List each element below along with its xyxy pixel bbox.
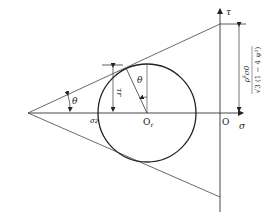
- sigma-axis-label: σ: [239, 121, 246, 131]
- sigma-z-label: σz: [90, 117, 99, 125]
- center-angle-label: θ: [137, 75, 143, 85]
- failure-envelope: [28, 24, 220, 197]
- svg-text:√3 (1 − 4 ψ²): √3 (1 − 4 ψ²): [254, 47, 262, 94]
- apex-angle-label: θ: [72, 96, 78, 106]
- tau-r-label: τr: [115, 88, 124, 97]
- svg-text:ρkσ0: ρkσ0: [241, 65, 251, 83]
- mohr-diagram: σ τ O τr θ θ σz Or ρkσ0 √3 (1 − 4 ψ²): [0, 0, 263, 221]
- tau-axis-label: τ: [226, 7, 232, 17]
- circle-center-label: Or: [143, 117, 153, 128]
- origin-label: O: [222, 117, 229, 127]
- height-formula: ρkσ0 √3 (1 − 4 ψ²): [241, 46, 262, 94]
- center-angle-arc: [140, 97, 147, 99]
- apex-angle-arc: [68, 95, 70, 111]
